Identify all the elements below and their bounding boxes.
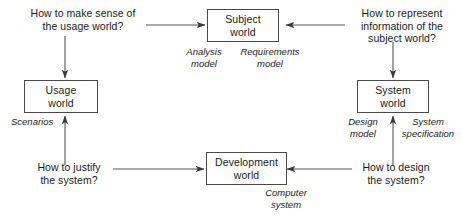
label-computer-system-line1: Computer bbox=[259, 187, 313, 199]
label-scenarios-line1: Scenarios bbox=[11, 116, 61, 128]
question-subject-world: How to represent information of the subj… bbox=[347, 7, 457, 45]
label-design-model: Design model bbox=[343, 116, 383, 139]
label-design-model-line2: model bbox=[343, 128, 383, 140]
label-scenarios: Scenarios bbox=[11, 116, 61, 128]
node-development-world-line2: world bbox=[234, 169, 260, 182]
node-subject-world-line2: world bbox=[230, 26, 256, 39]
label-design-model-line1: Design bbox=[343, 116, 383, 128]
question-subject-world-line3: subject world? bbox=[347, 32, 457, 45]
node-subject-world-line1: Subject bbox=[225, 13, 261, 26]
question-usage-world: How to make sense of the usage world? bbox=[22, 7, 144, 32]
question-justify-system-line2: the system? bbox=[27, 174, 111, 187]
node-usage-world[interactable]: Usage world bbox=[24, 80, 98, 113]
node-development-world-line1: Development bbox=[215, 156, 278, 169]
label-analysis-model-line1: Analysis bbox=[182, 46, 226, 58]
label-analysis-model-line2: model bbox=[182, 58, 226, 70]
diagram-canvas: Subject world Usage world System world D… bbox=[0, 0, 462, 222]
node-system-world[interactable]: System world bbox=[357, 80, 429, 113]
question-subject-world-line1: How to represent bbox=[347, 7, 457, 20]
label-computer-system-line2: system bbox=[259, 199, 313, 211]
label-analysis-model: Analysis model bbox=[182, 46, 226, 69]
node-system-world-line2: world bbox=[380, 97, 406, 110]
label-system-specification-line1: System bbox=[397, 116, 459, 128]
node-system-world-line1: System bbox=[375, 84, 411, 97]
node-usage-world-line2: world bbox=[48, 97, 74, 110]
node-development-world[interactable]: Development world bbox=[206, 152, 287, 185]
node-usage-world-line1: Usage bbox=[46, 84, 77, 97]
label-system-specification-line2: specification bbox=[397, 128, 459, 140]
label-requirements-model-line2: model bbox=[238, 58, 302, 70]
question-usage-world-line2: the usage world? bbox=[22, 20, 144, 33]
question-design-system-line2: the system? bbox=[355, 174, 437, 187]
question-usage-world-line1: How to make sense of bbox=[22, 7, 144, 20]
label-requirements-model: Requirements model bbox=[238, 46, 302, 69]
label-requirements-model-line1: Requirements bbox=[238, 46, 302, 58]
label-system-specification: System specification bbox=[397, 116, 459, 139]
question-design-system: How to design the system? bbox=[355, 161, 437, 186]
node-subject-world[interactable]: Subject world bbox=[207, 9, 279, 42]
question-subject-world-line2: information of the bbox=[347, 20, 457, 33]
label-computer-system: Computer system bbox=[259, 187, 313, 210]
question-design-system-line1: How to design bbox=[355, 161, 437, 174]
question-justify-system: How to justify the system? bbox=[27, 161, 111, 186]
question-justify-system-line1: How to justify bbox=[27, 161, 111, 174]
